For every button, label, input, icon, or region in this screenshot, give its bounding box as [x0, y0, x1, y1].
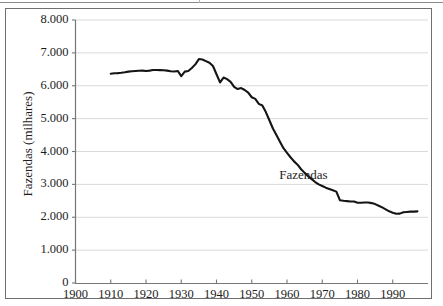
y-tick-label: 6.000 [21, 78, 69, 93]
y-tick-label: 3.000 [21, 176, 69, 191]
y-tick-label: 7.000 [21, 45, 69, 60]
x-tick-label: 1990 [371, 287, 415, 302]
y-tick-label: 4.000 [21, 144, 69, 159]
y-tick-label: 5.000 [21, 111, 69, 126]
y-tick-label: 2.000 [21, 209, 69, 224]
y-tick-label: 1.000 [21, 242, 69, 257]
series-annotation-label: Fazendas [279, 167, 327, 183]
x-tick-marks [76, 280, 393, 284]
y-tick-label: 8.000 [21, 12, 69, 27]
series-line-fazendas [111, 59, 418, 214]
chart-figure: Fazendas (milhares) 01.0002.0003.0004.00… [0, 0, 443, 306]
y-gridlines [76, 20, 429, 250]
